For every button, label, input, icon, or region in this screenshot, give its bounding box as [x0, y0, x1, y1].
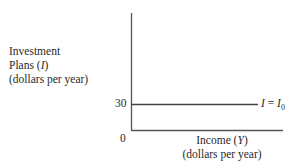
y-axis-label-line3: (dollars per year): [9, 72, 88, 86]
y-axis-label-line1: Investment: [9, 44, 88, 58]
x-axis-label-line1: Income (Y): [152, 133, 292, 147]
origin-label: 0: [120, 132, 126, 144]
y-axis-label-line2: Plans (I): [9, 58, 88, 72]
y-tick-30: 30: [115, 97, 127, 109]
x-axis-label: Income (Y) (dollars per year): [152, 133, 292, 161]
line-label: I = I0: [261, 97, 285, 112]
x-axis-label-line2: (dollars per year): [152, 147, 292, 161]
y-axis-label: Investment Plans (I) (dollars per year): [9, 44, 88, 86]
